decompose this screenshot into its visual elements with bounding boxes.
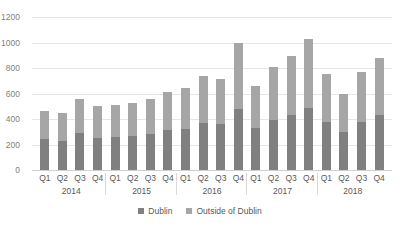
bar-segment-dublin (128, 136, 137, 170)
bar-segment-dublin (357, 122, 366, 170)
year-text: 2016 (203, 186, 222, 196)
x-axis-year-label: 2016 (177, 186, 247, 196)
bar-segment-dublin (40, 139, 49, 170)
bar-slot (247, 17, 265, 170)
x-axis-tick-label: Q3 (71, 173, 89, 183)
legend-swatch-icon (186, 208, 192, 214)
stacked-bar[interactable] (181, 88, 190, 170)
bar-slot (142, 17, 160, 170)
bar-slot (230, 17, 248, 170)
stacked-bar[interactable] (216, 79, 225, 170)
bar-slot (370, 17, 388, 170)
x-axis-year-label: 2017 (247, 186, 317, 196)
x-axis-tick-label: Q3 (142, 173, 160, 183)
year-text: 2015 (132, 186, 151, 196)
stacked-bar[interactable] (111, 105, 120, 170)
bar-slot (318, 17, 336, 170)
bar-slot (282, 17, 300, 170)
x-axis-tick-label: Q2 (124, 173, 142, 183)
stacked-bar[interactable] (304, 39, 313, 170)
stacked-bar[interactable] (163, 92, 172, 170)
bar-segment-dublin (216, 124, 225, 170)
x-axis-tick-label: Q4 (230, 173, 248, 183)
x-axis-tick-label: Q3 (353, 173, 371, 183)
bars-layer (32, 17, 392, 170)
bar-segment-outside-dublin (357, 72, 366, 121)
stacked-bar[interactable] (40, 111, 49, 170)
bar-segment-dublin (304, 108, 313, 170)
legend-label: Outside of Dublin (196, 206, 261, 216)
y-axis-tick-label: 200 (0, 141, 20, 150)
bar-segment-dublin (251, 128, 260, 170)
bar-segment-outside-dublin (375, 58, 384, 115)
legend-swatch-icon (138, 208, 144, 214)
bar-segment-outside-dublin (75, 99, 84, 133)
stacked-bar[interactable] (339, 94, 348, 171)
x-axis-tick-label: Q3 (282, 173, 300, 183)
y-axis-tick-label: 600 (0, 90, 20, 99)
stacked-bar[interactable] (322, 74, 331, 170)
x-axis-quarter-labels: Q1Q2Q3Q4Q1Q2Q3Q4Q1Q2Q3Q4Q1Q2Q3Q4Q1Q2Q3Q4 (32, 173, 392, 183)
bar-segment-outside-dublin (128, 103, 137, 136)
year-text: 2018 (343, 186, 362, 196)
bar-segment-dublin (75, 133, 84, 170)
x-axis-tick-label: Q1 (177, 173, 195, 183)
bar-segment-outside-dublin (322, 74, 331, 122)
bar-segment-dublin (287, 115, 296, 170)
bar-slot (89, 17, 107, 170)
bar-segment-outside-dublin (339, 94, 348, 132)
x-axis-tick-label: Q1 (106, 173, 124, 183)
bar-slot (124, 17, 142, 170)
legend-label: Dublin (148, 206, 172, 216)
x-axis-tick-label: Q2 (54, 173, 72, 183)
stacked-bar[interactable] (251, 86, 260, 170)
chart-legend: DublinOutside of Dublin (0, 206, 400, 216)
stacked-bar[interactable] (269, 67, 278, 170)
bar-segment-outside-dublin (251, 86, 260, 128)
x-axis-year-label: 2018 (318, 186, 388, 196)
bar-slot (71, 17, 89, 170)
bar-segment-dublin (93, 138, 102, 171)
bar-slot (36, 17, 54, 170)
y-axis-tick-label: 400 (0, 115, 20, 124)
x-axis-year-labels: 20142015201620172018 (32, 186, 392, 196)
bar-slot (265, 17, 283, 170)
x-axis-tick-label: Q4 (300, 173, 318, 183)
stacked-bar[interactable] (128, 103, 137, 170)
bar-segment-outside-dublin (269, 67, 278, 119)
stacked-bar[interactable] (199, 76, 208, 170)
stacked-bar[interactable] (287, 56, 296, 170)
bar-slot (177, 17, 195, 170)
bar-slot (194, 17, 212, 170)
stacked-bar[interactable] (75, 99, 84, 170)
year-text: 2017 (273, 186, 292, 196)
x-axis-tick-label: Q1 (247, 173, 265, 183)
stacked-bar[interactable] (93, 106, 102, 170)
bar-segment-dublin (58, 141, 67, 170)
bar-slot (54, 17, 72, 170)
x-axis-year-label: 2015 (106, 186, 176, 196)
bar-segment-outside-dublin (58, 113, 67, 142)
stacked-bar[interactable] (146, 99, 155, 170)
bar-slot (335, 17, 353, 170)
stacked-bar[interactable] (375, 58, 384, 170)
bar-segment-dublin (339, 132, 348, 170)
bar-segment-outside-dublin (199, 76, 208, 123)
stacked-bar[interactable] (357, 72, 366, 170)
stacked-bar-chart: 120010008006004002000 Q1Q2Q3Q4Q1Q2Q3Q4Q1… (0, 0, 400, 227)
bar-segment-outside-dublin (146, 99, 155, 134)
x-axis-tick-label: Q1 (36, 173, 54, 183)
bar-segment-outside-dublin (40, 111, 49, 140)
legend-item[interactable]: Outside of Dublin (186, 206, 261, 216)
bar-segment-dublin (163, 130, 172, 170)
bar-segment-dublin (269, 120, 278, 170)
bar-segment-dublin (146, 134, 155, 170)
bar-slot (300, 17, 318, 170)
bar-segment-outside-dublin (181, 88, 190, 128)
stacked-bar[interactable] (234, 43, 243, 170)
stacked-bar[interactable] (58, 113, 67, 170)
legend-item[interactable]: Dublin (138, 206, 172, 216)
bar-segment-outside-dublin (216, 79, 225, 124)
x-axis-tick-label: Q2 (335, 173, 353, 183)
bar-segment-outside-dublin (287, 56, 296, 115)
